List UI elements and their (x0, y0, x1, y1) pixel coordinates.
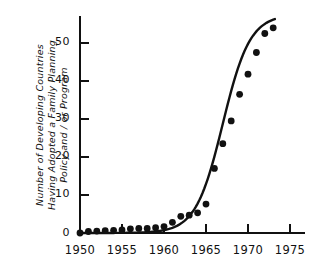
data-point (261, 30, 268, 37)
data-point (152, 224, 159, 231)
plot-area (0, 0, 319, 277)
axis-lines (80, 16, 305, 233)
data-point (85, 228, 92, 235)
y-axis-ticks (80, 43, 89, 195)
data-point (219, 140, 226, 147)
data-point (169, 219, 176, 226)
data-point (228, 118, 235, 125)
data-point (110, 227, 117, 234)
data-point (127, 225, 134, 232)
data-point (144, 225, 151, 232)
data-point (194, 209, 201, 216)
data-point (177, 213, 184, 220)
data-point (245, 71, 252, 78)
data-point (236, 91, 243, 98)
chart-figure: Number of Developing Countries Having Ad… (0, 0, 319, 277)
data-point (102, 227, 109, 234)
data-point (119, 227, 126, 234)
data-point (161, 223, 168, 230)
data-point (211, 165, 218, 172)
data-point (186, 212, 193, 219)
data-point (203, 201, 210, 208)
data-points (77, 24, 277, 236)
data-point (253, 49, 260, 56)
data-point (270, 24, 277, 31)
data-point (135, 225, 142, 232)
fitted-s-curve (80, 19, 275, 233)
data-point (93, 228, 100, 235)
data-point (77, 230, 84, 237)
